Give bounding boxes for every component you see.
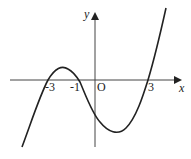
x-axis-label: x <box>178 81 185 95</box>
tick-label-3: 3 <box>148 80 154 94</box>
tick-label-neg1: -1 <box>70 80 80 94</box>
origin-label: O <box>97 80 106 94</box>
cubic-curve <box>22 8 166 147</box>
y-axis-label: y <box>83 7 90 21</box>
tick-label-neg3: -3 <box>45 80 55 94</box>
cubic-graph: y x O -3 -1 3 <box>0 0 191 159</box>
